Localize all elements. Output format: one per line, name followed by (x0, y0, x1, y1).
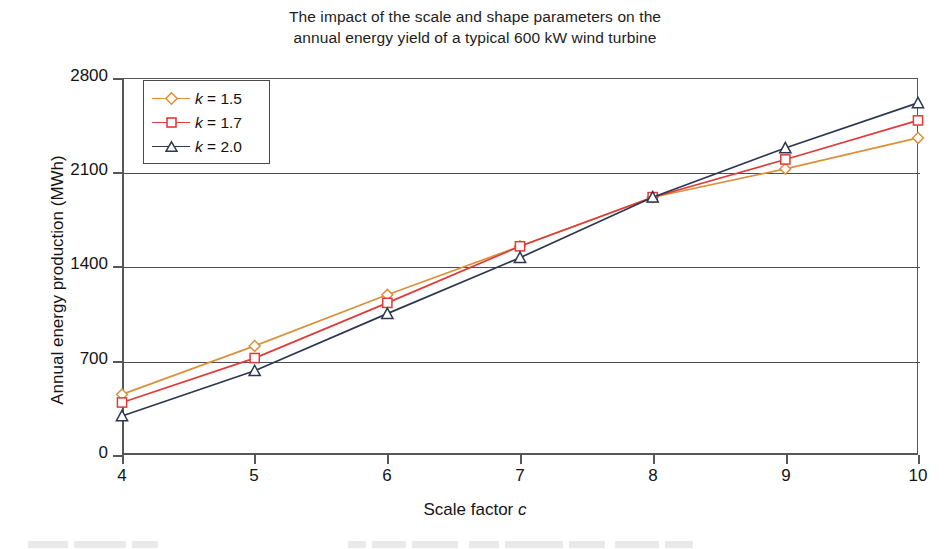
y-tick-label-2800: 2800 (38, 66, 108, 86)
legend-marker-diamond-icon (152, 91, 190, 107)
gridline-700 (124, 362, 920, 363)
gridline-1400 (124, 267, 920, 268)
y-tick-label-1400: 1400 (38, 254, 108, 274)
legend-value-k17: = 1.7 (207, 114, 242, 131)
chart-title-line-1: The impact of the scale and shape parame… (0, 6, 950, 27)
legend-label-k15: k = 1.5 (195, 90, 242, 108)
gridline-2100 (124, 173, 920, 174)
x-tick-label-5: 5 (234, 466, 274, 486)
y-tick-label-700: 700 (38, 349, 108, 369)
legend-symbol-k: k (195, 90, 203, 107)
y-tick-label-2100: 2100 (38, 160, 108, 180)
x-tick-label-9: 9 (766, 466, 806, 486)
y-tick-1400 (113, 266, 122, 268)
x-tick-9 (786, 455, 788, 464)
legend-item-k15[interactable]: k = 1.5 (144, 87, 269, 111)
legend-value-k20: = 2.0 (207, 138, 242, 155)
y-tick-2100 (113, 172, 122, 174)
legend: k = 1.5 k = 1.7 k = 2.0 (143, 80, 270, 164)
x-tick-label-10: 10 (898, 466, 938, 486)
chart-title-line-2: annual energy yield of a typical 600 kW … (0, 27, 950, 48)
x-tick-label-8: 8 (633, 466, 673, 486)
x-tick-label-7: 7 (500, 466, 540, 486)
legend-item-k17[interactable]: k = 1.7 (144, 111, 269, 135)
legend-marker-triangle-icon (152, 139, 190, 155)
x-axis-title-text: Scale factor (424, 500, 514, 519)
x-tick-7 (520, 455, 522, 464)
legend-label-k17: k = 1.7 (195, 114, 242, 132)
chart-title: The impact of the scale and shape parame… (0, 6, 950, 48)
x-tick-label-4: 4 (102, 466, 142, 486)
x-tick-6 (387, 455, 389, 464)
x-axis-title-symbol: c (518, 500, 527, 519)
legend-item-k20[interactable]: k = 2.0 (144, 135, 269, 159)
y-tick-0 (113, 455, 122, 457)
x-tick-5 (254, 455, 256, 464)
x-tick-4 (122, 455, 124, 464)
chart-screenshot: The impact of the scale and shape parame… (0, 0, 950, 549)
legend-symbol-k2: k (195, 114, 203, 131)
y-tick-label-0: 0 (38, 443, 108, 463)
page-footer-artifact (0, 534, 950, 546)
legend-label-k20: k = 2.0 (195, 138, 242, 156)
y-axis-title: Annual energy production (MWh) (48, 100, 68, 460)
x-tick-10 (918, 455, 920, 464)
y-tick-700 (113, 361, 122, 363)
legend-value-k15: = 1.5 (207, 90, 242, 107)
x-tick-label-6: 6 (367, 466, 407, 486)
legend-marker-square-icon (152, 115, 190, 131)
y-tick-2800 (113, 78, 122, 80)
x-axis-title: Scale factor c (0, 500, 950, 520)
x-tick-8 (653, 455, 655, 464)
legend-symbol-k3: k (195, 138, 203, 155)
